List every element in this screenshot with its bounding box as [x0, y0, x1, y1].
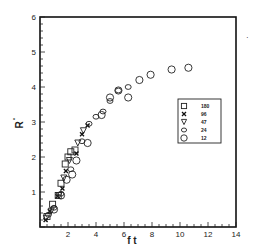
x-tick-label: 12: [204, 230, 213, 239]
data-points: [43, 64, 192, 222]
y-tick-label: 1: [32, 188, 37, 197]
x-axis-label: f t: [127, 235, 137, 246]
x-tick-label: 6: [122, 230, 127, 239]
x-tick-label: 2: [66, 230, 71, 239]
svg-text:96: 96: [201, 111, 207, 117]
scatter-chart: 2468101214123456 18096472412 f t R * ·: [0, 0, 257, 251]
svg-text:R: R: [14, 121, 25, 129]
x-tick-label: 10: [176, 230, 185, 239]
x-tick-label: 8: [150, 230, 155, 239]
y-tick-label: 6: [32, 13, 37, 22]
svg-text:47: 47: [201, 119, 207, 125]
legend-box: [178, 99, 221, 143]
y-tick-label: 4: [32, 83, 37, 92]
y-tick-label: 2: [32, 153, 37, 162]
y-axis-label: R *: [12, 118, 25, 129]
series-12: [50, 64, 192, 213]
svg-text:180: 180: [201, 103, 210, 109]
svg-text:24: 24: [201, 127, 207, 133]
x-tick-label: 4: [94, 230, 99, 239]
legend: 18096472412: [178, 99, 221, 143]
svg-text:*: *: [12, 118, 18, 120]
stray-mark: ·: [246, 33, 249, 42]
y-tick-label: 5: [32, 48, 37, 57]
x-tick-label: 14: [232, 230, 241, 239]
svg-text:12: 12: [201, 135, 207, 141]
y-tick-label: 3: [32, 118, 37, 127]
